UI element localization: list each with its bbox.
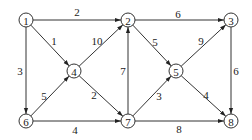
node-label: 2 [125,15,131,27]
edge-weight-label: 6 [233,65,239,77]
edge-weight-label: 7 [120,65,126,77]
node-8: 8 [224,114,238,128]
node-3: 3 [224,13,238,27]
edge-6-to-4 [31,76,69,116]
node-label: 4 [71,66,77,78]
edge-weight-label: 10 [92,35,104,47]
node-7: 7 [121,114,135,128]
edge-weight-label: 6 [175,8,181,20]
node-label: 3 [228,15,234,27]
edge-7-to-5 [133,76,171,116]
node-label: 7 [125,116,131,128]
edge-weight-label: 4 [72,124,78,136]
edge-weight-label: 5 [152,36,158,48]
node-label: 5 [173,66,179,78]
edge-1-to-4 [31,25,69,66]
edge-weight-label: 3 [156,90,162,102]
node-label: 6 [23,116,29,128]
node-6: 6 [19,114,33,128]
graph-diagram: 2131052475693468 12345678 [0,0,252,140]
edge-weight-label: 3 [17,65,23,77]
edge-4-to-7 [79,76,123,116]
node-label: 1 [23,15,29,27]
edge-weight-label: 9 [198,35,204,47]
node-label: 8 [228,116,234,128]
edge-weight-label: 4 [203,89,209,101]
node-1: 1 [19,13,33,27]
edge-weight-label: 8 [176,123,182,135]
node-2: 2 [121,13,135,27]
node-4: 4 [67,64,81,78]
edge-weight-label: 1 [51,35,57,47]
edge-weight-label: 2 [91,89,97,101]
node-5: 5 [169,64,183,78]
edge-weight-label: 5 [41,90,47,102]
edge-weight-label: 2 [74,6,80,18]
